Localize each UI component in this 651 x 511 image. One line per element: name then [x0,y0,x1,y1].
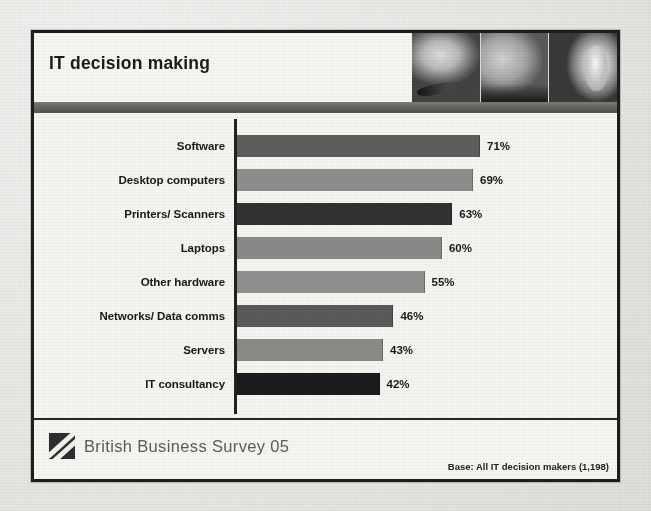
bar-category-label: IT consultancy [34,378,234,390]
bar-segment [234,237,442,259]
bar-track: 60% [234,231,617,264]
bbs-diagonal-logo-icon [49,433,75,459]
photo-panel-3-image [548,33,617,102]
bar-chart-row: Servers43% [34,333,617,366]
bar-category-label: Networks/ Data comms [34,310,234,322]
bar-track: 69% [234,163,617,196]
scanned-page: IT decision making Software71%Desktop co… [0,0,651,511]
bar-chart: Software71%Desktop computers69%Printers/… [34,113,617,420]
bar-value-label: 55% [432,276,455,288]
bar-value-label: 69% [480,174,503,186]
page-title: IT decision making [49,53,210,74]
bar-chart-row: Networks/ Data comms46% [34,299,617,332]
bar-chart-rows: Software71%Desktop computers69%Printers/… [34,129,617,400]
bar-chart-row: Software71% [34,129,617,162]
photo-panel-2-image [480,33,549,102]
bar-chart-row: Printers/ Scanners63% [34,197,617,230]
bar-track: 71% [234,129,617,162]
slide-footer: British Business Survey 05 Base: All IT … [34,420,617,479]
presentation-slide: IT decision making Software71%Desktop co… [31,30,620,482]
bar-track: 55% [234,265,617,298]
bar-category-label: Laptops [34,242,234,254]
category-axis-line [234,119,237,414]
bar-segment [234,169,473,191]
bar-category-label: Desktop computers [34,174,234,186]
photo-panel-1-image [412,33,480,102]
bar-chart-row: Desktop computers69% [34,163,617,196]
base-note: Base: All IT decision makers (1,198) [448,461,609,472]
bar-category-label: Servers [34,344,234,356]
bar-track: 42% [234,367,617,400]
bar-category-label: Other hardware [34,276,234,288]
bar-chart-row: Laptops60% [34,231,617,264]
bar-value-label: 43% [390,344,413,356]
bar-segment [234,373,380,395]
bar-chart-row: Other hardware55% [34,265,617,298]
bar-category-label: Software [34,140,234,152]
bar-segment [234,305,393,327]
brand-lockup: British Business Survey 05 [49,433,289,459]
bar-track: 46% [234,299,617,332]
bar-value-label: 46% [400,310,423,322]
bar-segment [234,339,383,361]
header-divider-band [34,102,617,113]
bar-value-label: 60% [449,242,472,254]
bar-segment [234,203,452,225]
bar-value-label: 71% [487,140,510,152]
bar-segment [234,271,425,293]
bar-value-label: 63% [459,208,482,220]
bar-value-label: 42% [387,378,410,390]
bar-track: 43% [234,333,617,366]
brand-name: British Business Survey 05 [84,437,289,456]
bar-segment [234,135,480,157]
header-photo-strip [412,30,617,102]
bar-chart-row: IT consultancy42% [34,367,617,400]
bar-category-label: Printers/ Scanners [34,208,234,220]
bar-track: 63% [234,197,617,230]
slide-header: IT decision making [34,33,617,102]
